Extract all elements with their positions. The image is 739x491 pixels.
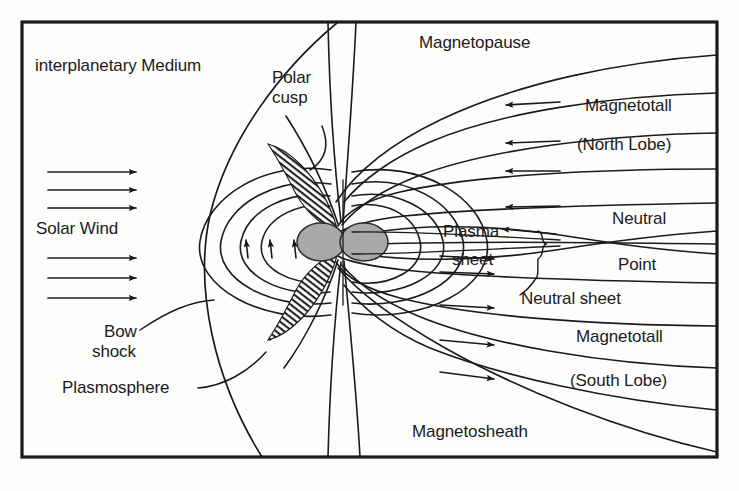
label-plasma-sheet-line2: sheet (452, 250, 493, 269)
label-magnetotail-north-line1: Magnetotall (585, 96, 672, 115)
label-plasmosphere: Plasmosphere (62, 378, 169, 397)
label-magnetosheath: Magnetosheath (412, 422, 528, 441)
label-plasma-sheet-line1: Plasma (443, 222, 499, 241)
earth-lobe-west (297, 223, 345, 261)
label-magnetopause: Magnetopause (419, 33, 530, 52)
label-magnetotail-south-line1: Magnetotall (576, 327, 663, 346)
label-interplanetary-medium: interplanetary Medium (35, 56, 201, 75)
label-polar-cusp-line2: cusp (272, 88, 308, 107)
earth-lobe-east (340, 223, 388, 261)
label-bow-shock-line1: Bow (104, 322, 137, 341)
label-solar-wind: Solar Wind (36, 219, 118, 238)
label-polar-cusp-line1: Polar (272, 68, 311, 87)
label-neutral: Neutral (612, 209, 666, 228)
label-bow-shock-line2: shock (92, 342, 136, 361)
label-point: Point (618, 255, 656, 274)
label-magnetotail-south-line2: (South Lobe) (570, 371, 667, 390)
tail-arrow-north-4 (506, 206, 560, 207)
label-neutral-sheet: Neutral sheet (521, 289, 621, 308)
label-magnetotail-north-line2: (North Lobe) (577, 135, 671, 154)
figure-canvas: interplanetary Medium Solar Wind Polar c… (0, 0, 739, 491)
